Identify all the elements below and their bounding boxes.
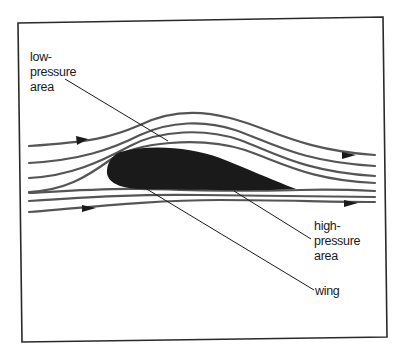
lower-streamlines: [29, 189, 375, 212]
leader-high-pressure: [234, 191, 311, 239]
wing-shape: [107, 147, 296, 190]
streamline: [29, 113, 375, 155]
high-pressure-label: high- pressure area: [314, 219, 360, 264]
low-pressure-label: low- pressure area: [30, 50, 76, 95]
wing-label: wing: [315, 284, 340, 299]
leader-low-pressure: [65, 79, 168, 141]
leader-wing: [145, 188, 314, 290]
streamline: [29, 200, 375, 212]
